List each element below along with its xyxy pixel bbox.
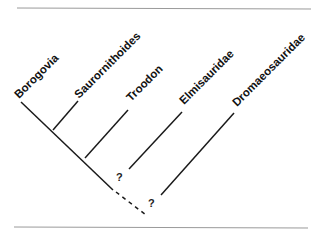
uncertain-node-marker: ? (116, 171, 123, 183)
uncertain-node-marker: ? (148, 197, 155, 209)
main-stem-branch (21, 102, 113, 190)
uncertain-stem-dashed (116, 192, 146, 215)
taxon-label-elmisauridae: Elmisauridae (177, 47, 236, 106)
dromaeosauridae-branch (161, 113, 234, 195)
elmisauridae-branch (129, 112, 182, 169)
saurornithoides-branch (53, 101, 78, 130)
cladogram: ? ? Borogovia Saurornithoides Troodon El… (0, 0, 326, 235)
bottom-rule (14, 227, 308, 228)
top-rule (17, 8, 311, 9)
troodon-branch (85, 110, 128, 158)
taxon-label-dromaeosauridae: Dromaeosauridae (230, 31, 307, 108)
taxon-label-borogovia: Borogovia (12, 51, 61, 100)
taxon-label-troodon: Troodon (124, 62, 165, 103)
